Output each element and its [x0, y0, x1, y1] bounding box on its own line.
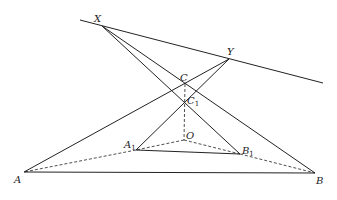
point-label-c: C: [180, 73, 188, 83]
point-label-b1: B1: [242, 146, 254, 158]
geometry-diagram: XYCC1OA1B1AB: [0, 0, 337, 200]
solid-segment: [80, 20, 323, 83]
solid-segment: [136, 150, 240, 154]
diagram-lines: [0, 0, 337, 200]
point-label-a: A: [14, 175, 21, 185]
solid-segment: [24, 172, 315, 173]
point-label-b: B: [316, 176, 323, 186]
dashed-segment: [24, 150, 136, 172]
dashed-segment: [184, 84, 185, 140]
point-label-c1: C1: [187, 96, 199, 108]
point-label-y: Y: [227, 47, 234, 57]
solid-segment: [102, 26, 240, 154]
dashed-segment: [136, 140, 184, 150]
point-label-a1: A1: [124, 140, 136, 152]
point-label-x: X: [94, 14, 101, 24]
point-label-o: O: [186, 131, 194, 141]
